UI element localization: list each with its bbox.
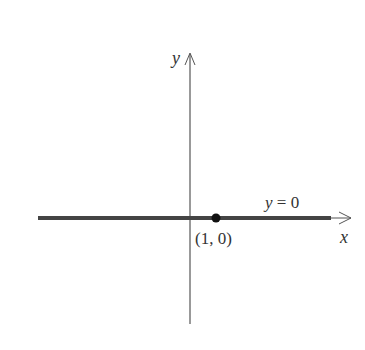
line-equation-label: y = 0: [263, 193, 299, 212]
point-label: (1, 0): [195, 229, 232, 248]
x-axis-label: x: [339, 227, 348, 247]
coordinate-plane: y x y = 0 (1, 0): [0, 0, 365, 350]
point-1-0: [212, 214, 221, 223]
y-axis-label: y: [170, 48, 180, 68]
line-equation-var: y: [263, 193, 273, 212]
line-equation-rest: = 0: [273, 193, 300, 212]
